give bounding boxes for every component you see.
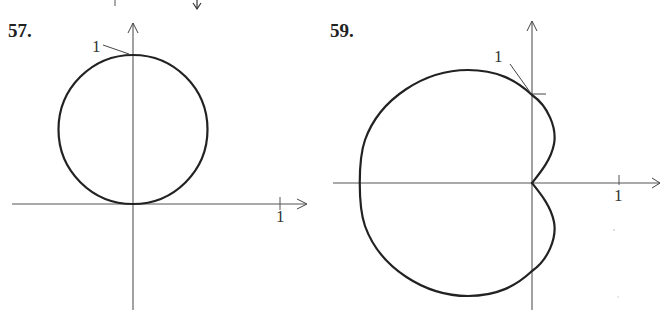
figure-59: 59. 1 1 (0, 0, 660, 322)
point-label-1: 1 (494, 47, 503, 67)
leader-line (510, 64, 530, 92)
x-tick-label-1: 1 (614, 186, 623, 206)
speck (617, 296, 619, 298)
x-axis (333, 175, 660, 188)
polar-plot-59 (0, 0, 660, 322)
speck (613, 229, 615, 231)
